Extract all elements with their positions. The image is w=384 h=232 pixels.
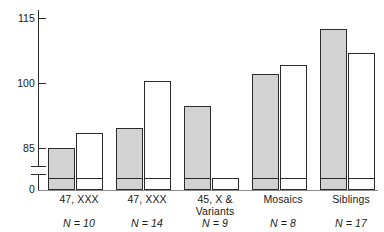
bar-group-3-gray-base [184,178,211,190]
bar-group-5 [320,10,378,190]
bar-group-3-white-base [212,178,239,190]
group-size-5-text: N = 17 [335,217,367,229]
group-size-1-text: N = 10 [63,217,95,229]
bar-group-1 [48,10,106,190]
bar-group-5-white[interactable] [348,53,375,190]
bar-group-4-gray-base [252,178,279,190]
bar-group-4-gray[interactable] [252,74,279,190]
bar-group-5-gray-base [320,178,347,190]
category-label-3-line2: Variants [174,206,256,218]
bar-group-5-white-base [348,178,375,190]
y-tick-label-100: 100 [17,78,35,89]
category-label-5: Siblings [310,194,384,206]
bar-group-1-white-base [76,178,103,190]
bar-group-3 [184,10,242,190]
bar-group-4 [252,10,310,190]
y-tick-label-0: 0 [29,184,35,195]
y-tick-label-85: 85 [23,143,35,154]
group-size-3-text: N = 9 [202,217,228,229]
bar-group-2-gray-base [116,178,143,190]
bar-group-2-white[interactable] [144,81,171,190]
category-label-5-line1: Siblings [310,194,384,206]
y-tick-label-115: 115 [18,13,35,24]
bar-group-4-white-base [280,178,307,190]
bar-group-4-white[interactable] [280,65,307,190]
group-size-4-text: N = 8 [270,217,296,229]
plot-area [38,10,378,190]
bar-group-2-white-base [144,178,171,190]
group-size-2-text: N = 14 [131,217,163,229]
bar-group-1-gray-base [48,178,75,190]
bar-chart: 115 100 85 0 [0,0,384,232]
bar-group-5-gray[interactable] [320,29,347,190]
bar-group-2 [116,10,174,190]
group-size-5: N = 17 [310,218,384,229]
